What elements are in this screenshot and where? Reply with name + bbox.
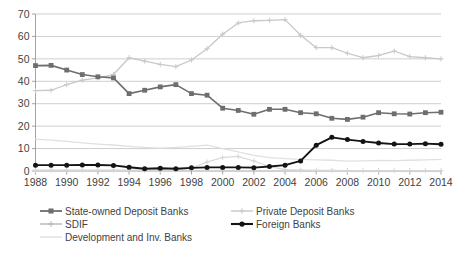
data-point-marker [220,165,225,170]
data-point-marker [298,110,303,115]
data-point-marker [439,142,444,147]
data-point-marker [205,165,210,170]
series-private-deposit-banks [33,17,444,93]
data-point-marker [189,91,194,96]
y-axis-tick-label: 20 [18,120,30,132]
data-point-marker [283,163,288,168]
data-point-marker [283,107,288,112]
y-axis-tick-label: 50 [18,53,30,65]
data-point-marker [142,166,147,171]
data-point-marker [220,106,225,111]
legend-item[interactable]: Development and Inv. Banks [40,232,192,243]
data-point-marker [111,76,116,81]
data-point-marker [236,165,241,170]
x-axis-tick-label: 1994 [117,176,141,188]
data-point-marker [361,139,366,144]
data-point-marker [189,165,194,170]
legend-item-label: Development and Inv. Banks [65,232,192,243]
series-foreign-banks [33,135,444,171]
x-axis-tick-label: 2002 [242,176,266,188]
legend-item-label: State-owned Deposit Banks [65,206,188,217]
data-point-marker [251,112,256,117]
data-point-marker [392,142,397,147]
x-axis-tick-label: 2014 [429,176,453,188]
data-point-marker [439,110,444,115]
legend-item[interactable]: Foreign Banks [231,219,320,230]
data-point-marker [49,163,54,168]
x-axis-tick-label: 2006 [305,176,329,188]
x-axis-tick-label: 1998 [180,176,204,188]
data-point-marker [251,165,256,170]
data-point-marker [64,68,69,73]
data-point-marker [80,162,85,167]
data-point-marker [345,117,350,122]
x-axis-tick-label: 1996 [149,176,173,188]
x-axis-tick-label: 2008 [336,176,360,188]
data-point-marker [33,63,38,68]
y-axis-tick-label: 10 [18,142,30,154]
data-point-marker [345,137,350,142]
data-point-marker [127,165,132,170]
legend-item-label: Foreign Banks [256,219,320,230]
data-point-marker [127,91,132,96]
x-axis-tick-label: 2000 [211,176,235,188]
data-point-marker [33,163,38,168]
data-point-marker [267,164,272,169]
data-point-marker [407,142,412,147]
data-point-marker [205,93,210,98]
data-point-marker [236,108,241,113]
legend-item-label: SDIF [65,219,88,230]
data-point-marker [48,208,53,213]
data-point-marker [158,84,163,89]
data-point-marker [314,111,319,116]
data-point-marker [142,88,147,93]
series-state-owned-deposit-banks [33,63,443,122]
data-point-marker [80,72,85,77]
series-sdif [33,154,444,173]
y-axis-tick-label: 30 [18,97,30,109]
chart-container: 0102030405060701988199019921994199619982… [0,0,453,254]
data-point-marker [423,110,428,115]
data-point-marker [173,166,178,171]
x-axis-tick-label: 1992 [86,176,110,188]
y-axis-tick-label: 40 [18,75,30,87]
data-point-marker [407,112,412,117]
y-axis-tick-label: 70 [18,8,30,20]
data-point-marker [95,162,100,167]
data-point-marker [314,143,319,148]
data-point-marker [423,141,428,146]
x-axis: 1988199019921994199619982000200220042006… [24,171,453,188]
line-chart: 0102030405060701988199019921994199619982… [0,0,453,254]
data-point-marker [49,63,54,68]
data-point-marker [298,158,303,163]
data-point-marker [361,115,366,120]
data-point-marker [267,107,272,112]
data-point-marker [95,74,100,79]
data-point-marker [376,140,381,145]
data-point-marker [329,116,334,121]
gridlines: 010203040506070 [18,8,441,177]
data-point-marker [158,166,163,171]
y-axis-tick-label: 0 [24,165,30,177]
data-point-marker [329,135,334,140]
data-point-marker [392,111,397,116]
legend-item[interactable]: Private Deposit Banks [231,206,354,217]
legend-item-label: Private Deposit Banks [256,206,354,217]
legend-item[interactable]: State-owned Deposit Banks [40,206,188,217]
chart-legend: State-owned Deposit BanksPrivate Deposit… [40,206,354,243]
x-axis-tick-label: 2010 [367,176,391,188]
data-point-marker [64,163,69,168]
data-point-marker [239,221,244,226]
x-axis-tick-label: 2012 [398,176,422,188]
x-axis-tick-label: 1988 [24,176,48,188]
data-point-marker [173,82,178,87]
y-axis-tick-label: 60 [18,30,30,42]
legend-item[interactable]: SDIF [40,219,88,230]
x-axis-tick-label: 1990 [55,176,79,188]
data-point-marker [111,163,116,168]
x-axis-tick-label: 2004 [273,176,297,188]
data-point-marker [376,110,381,115]
